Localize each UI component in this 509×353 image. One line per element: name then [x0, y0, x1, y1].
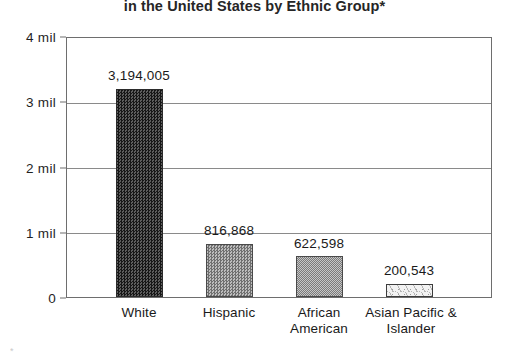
x-label-hispanic-line1: Hispanic: [203, 305, 256, 321]
y-tick-label-3mil: 3 mil: [26, 95, 56, 110]
x-label-white: White: [121, 305, 156, 321]
bar-value-asian-pacific-islander: 200,543: [384, 263, 434, 278]
bar-white[interactable]: [116, 89, 163, 297]
x-label-asian-pacific-islander: Asian Pacific & Islander: [365, 305, 457, 337]
x-label-african-american-line2: American: [290, 321, 348, 337]
bar-value-african-american: 622,598: [294, 236, 344, 251]
bar-chart-figure: in the United States by Ethnic Group* 4 …: [0, 0, 509, 353]
y-axis: 4 mil 3 mil 2 mil 1 mil 0: [0, 37, 66, 298]
x-label-hispanic: Hispanic: [203, 305, 256, 321]
x-label-african-american-line1: African: [290, 305, 348, 321]
chart-title: in the United States by Ethnic Group*: [0, 0, 509, 14]
x-label-white-line1: White: [121, 305, 156, 321]
x-label-asian-pacific-islander-line2: Islander: [365, 321, 457, 337]
y-tick-label-1mil: 1 mil: [26, 225, 56, 240]
x-label-asian-pacific-islander-line1: Asian Pacific &: [365, 305, 457, 321]
bar-value-hispanic: 816,868: [204, 223, 254, 238]
bar-value-white: 3,194,005: [108, 68, 170, 83]
y-tick-label-2mil: 2 mil: [26, 160, 56, 175]
bar-african-american[interactable]: [296, 256, 343, 297]
footnote: *: [10, 346, 14, 353]
bar-hispanic[interactable]: [206, 244, 253, 297]
bar-asian-pacific-islander[interactable]: [386, 284, 433, 297]
y-tick-label-4mil: 4 mil: [26, 30, 56, 45]
y-tick-label-0: 0: [48, 291, 56, 306]
x-label-african-american: African American: [290, 305, 348, 337]
